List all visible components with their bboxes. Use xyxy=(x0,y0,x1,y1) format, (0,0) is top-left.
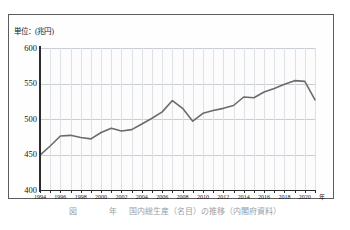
x-tick-mark-2017 xyxy=(274,190,275,193)
x-tick-2008: 2008 xyxy=(177,193,189,201)
x-tick-mark-1995 xyxy=(50,190,51,193)
x-tick-2018: 2018 xyxy=(278,193,290,201)
x-tick-2002: 2002 xyxy=(115,193,127,201)
x-tick-mark-2006 xyxy=(162,190,163,193)
x-tick-mark-2001 xyxy=(111,190,112,193)
x-tick-mark-2013 xyxy=(234,190,235,193)
x-tick-mark-2002 xyxy=(121,190,122,193)
x-tick-mark-2007 xyxy=(172,190,173,193)
y-tick-450: 450 xyxy=(11,150,37,159)
x-tick-mark-1999 xyxy=(91,190,92,193)
x-tick-mark-2021 xyxy=(315,190,316,193)
x-tick-2010: 2010 xyxy=(197,193,209,201)
x-axis-unit-label: 年 xyxy=(319,193,325,201)
series-line-gdp xyxy=(40,48,315,190)
x-tick-mark-2008 xyxy=(183,190,184,193)
y-axis-line xyxy=(39,46,41,192)
x-tick-mark-2011 xyxy=(213,190,214,193)
x-tick-mark-1998 xyxy=(81,190,82,193)
x-tick-mark-2005 xyxy=(152,190,153,193)
x-tick-1998: 1998 xyxy=(75,193,87,201)
x-tick-mark-2009 xyxy=(193,190,194,193)
x-tick-mark-2004 xyxy=(142,190,143,193)
x-tick-1996: 1996 xyxy=(54,193,66,201)
y-tick-500: 500 xyxy=(11,115,37,124)
x-tick-mark-1996 xyxy=(60,190,61,193)
x-tick-mark-2018 xyxy=(284,190,285,193)
x-tick-2000: 2000 xyxy=(95,193,107,201)
x-tick-1994: 1994 xyxy=(34,193,46,201)
y-tick-550: 550 xyxy=(11,79,37,88)
y-tick-600: 600 xyxy=(11,44,37,53)
x-tick-mark-2003 xyxy=(132,190,133,193)
figure-page: 単位：(兆円) 600550500450400 年 図 年 国内総生産（名目）の… xyxy=(0,0,350,230)
x-tick-mark-1994 xyxy=(40,190,41,193)
x-tick-2020: 2020 xyxy=(299,193,311,201)
figure-caption: 図 年 国内総生産（名目）の推移（内閣府資料） xyxy=(0,206,350,217)
x-tick-mark-2016 xyxy=(264,190,265,193)
x-tick-mark-2012 xyxy=(223,190,224,193)
x-tick-mark-2020 xyxy=(305,190,306,193)
x-tick-mark-2015 xyxy=(254,190,255,193)
x-tick-mark-2014 xyxy=(244,190,245,193)
x-tick-mark-1997 xyxy=(71,190,72,193)
x-tick-mark-2010 xyxy=(203,190,204,193)
gridline-v-2021 xyxy=(315,48,316,190)
x-tick-mark-2019 xyxy=(295,190,296,193)
x-tick-2014: 2014 xyxy=(238,193,250,201)
x-tick-2006: 2006 xyxy=(156,193,168,201)
x-tick-2016: 2016 xyxy=(258,193,270,201)
y-axis-tick-labels: 600550500450400 xyxy=(8,0,37,230)
x-tick-2004: 2004 xyxy=(136,193,148,201)
x-tick-2012: 2012 xyxy=(217,193,229,201)
plot-area xyxy=(40,48,315,190)
x-tick-mark-2000 xyxy=(101,190,102,193)
